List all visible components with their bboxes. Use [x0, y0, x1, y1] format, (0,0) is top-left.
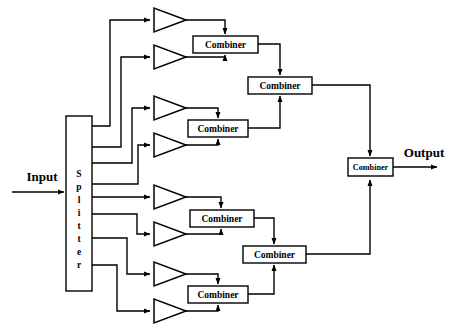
splitter-letter-0: S — [76, 169, 81, 179]
amplifier-7-icon — [154, 262, 186, 286]
splitter-branch-8 — [92, 265, 150, 311]
wire-c1c-to-c2b — [254, 218, 274, 244]
wire-c2a-to-c3 — [312, 85, 370, 156]
wire-amp3-to-c1b — [186, 108, 218, 118]
splitter-output-wires — [92, 20, 150, 311]
amplifier-5-icon — [154, 185, 186, 209]
diagram-canvas: Input S p l i t t e r — [0, 0, 455, 329]
combiner-2a[interactable]: Combiner — [248, 77, 312, 94]
wire-c1a-to-c2a — [258, 44, 280, 75]
wire-amp1-to-c1a — [186, 20, 225, 34]
combiner-2a-label: Combiner — [259, 81, 301, 91]
combiner-1a[interactable]: Combiner — [193, 36, 258, 53]
wire-amp2-to-c1a — [186, 55, 225, 57]
wire-amp7-to-c1d — [186, 274, 218, 284]
wire-c2b-to-c3 — [306, 180, 370, 254]
splitter-branch-6 — [92, 214, 150, 234]
splitter-letter-6: e — [77, 247, 81, 257]
output-label: Output — [404, 145, 445, 160]
input-label: Input — [26, 169, 58, 184]
splitter-block: S p l i t t e r — [66, 116, 92, 291]
amplifier-4-icon — [154, 133, 186, 157]
input-port: Input — [12, 169, 64, 193]
splitter-letter-3: i — [78, 208, 81, 218]
combiner-1d[interactable]: Combiner — [188, 286, 248, 303]
splitter-letter-1: p — [76, 182, 81, 192]
amplifier-6-icon — [154, 222, 186, 246]
combiner-1c[interactable]: Combiner — [190, 210, 254, 227]
combiner-2b-label: Combiner — [254, 250, 296, 260]
combiner-1b[interactable]: Combiner — [188, 120, 248, 137]
combiner-1c-label: Combiner — [201, 214, 243, 224]
splitter-letter-2: l — [78, 195, 81, 205]
amplifier-group — [154, 8, 186, 323]
wire-c1b-to-c2a — [248, 96, 280, 128]
combiner-1b-label: Combiner — [197, 124, 239, 134]
amplifier-2-icon — [154, 45, 186, 69]
block-diagram: Input S p l i t t e r — [0, 0, 455, 329]
amplifier-1-icon — [154, 8, 186, 32]
combiner-1d-label: Combiner — [197, 290, 239, 300]
wire-amp4-to-c1b — [186, 139, 218, 145]
amplifier-3-icon — [154, 96, 186, 120]
splitter-branch-2 — [92, 57, 150, 147]
wire-amp6-to-c1c — [186, 229, 221, 234]
wire-amp8-to-c1d — [186, 305, 218, 311]
output-port: Output — [393, 145, 445, 168]
combiner-3-label: Combiner — [353, 163, 389, 172]
combiner-2b[interactable]: Combiner — [243, 246, 306, 263]
wire-c1d-to-c2b — [248, 265, 274, 294]
stage2-combiners: Combiner Combiner — [243, 77, 312, 263]
wire-amp5-to-c1c — [186, 197, 221, 208]
amplifier-8-icon — [154, 299, 186, 323]
combiner-3[interactable]: Combiner — [348, 158, 393, 176]
splitter-branch-7 — [92, 238, 150, 274]
combiner-1a-label: Combiner — [205, 40, 247, 50]
splitter-branch-4 — [92, 145, 150, 184]
amp-to-combiner-wires — [186, 20, 225, 311]
